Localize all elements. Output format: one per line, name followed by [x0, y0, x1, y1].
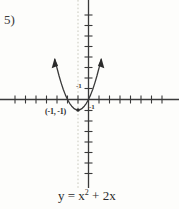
vertex-point-marker [76, 108, 80, 112]
vertex-coordinate-label: (-1, -1) [45, 108, 66, 116]
y-tick-label-negative-one: -1 [89, 104, 95, 111]
x-tick-label-negative-one: -1 [76, 83, 82, 90]
problem-number: 5) [4, 13, 15, 26]
equation-caption: y = x2 + 2x [58, 189, 116, 202]
equation-lhs: y = x [58, 188, 85, 203]
graph-figure: 5) -1 -1 (-1, -1) y = x2 + 2x [0, 0, 179, 209]
equation-exponent: 2 [85, 188, 89, 197]
equation-rhs: + 2x [92, 188, 116, 203]
